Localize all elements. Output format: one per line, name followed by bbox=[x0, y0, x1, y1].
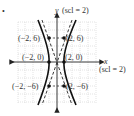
y-scale-label: (scl = 2) bbox=[62, 6, 89, 15]
hyperbola-diagram: • y (scl = 2) x (scl = 2) (−2, 6) (2, 6 bbox=[0, 0, 134, 116]
point-label: (2, 0) bbox=[65, 53, 83, 62]
point-label: (−2, 0) bbox=[22, 53, 44, 62]
x-scale-label: (scl = 2) bbox=[99, 65, 126, 74]
bullet: • bbox=[2, 7, 5, 16]
point-label: (2, 6) bbox=[66, 34, 84, 43]
point-label: (2, −6) bbox=[66, 82, 88, 91]
hyperbola-right-branch bbox=[64, 20, 76, 105]
point-label: (−2, −6) bbox=[12, 82, 39, 91]
point-label: (−2, 6) bbox=[18, 34, 40, 43]
y-axis-label: y bbox=[54, 6, 59, 15]
